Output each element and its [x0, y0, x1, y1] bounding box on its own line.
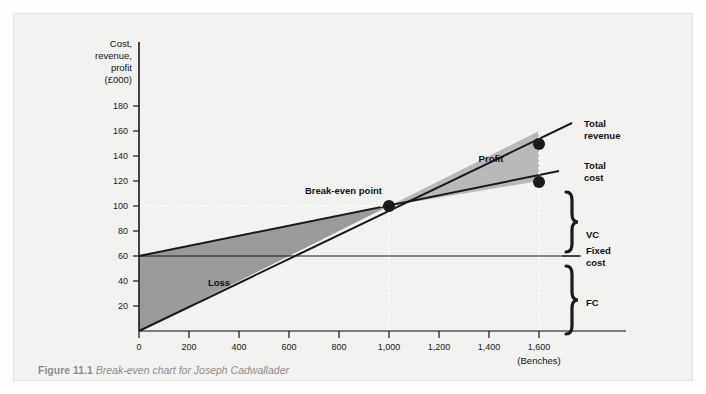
total-cost-label-line-1: Total	[584, 160, 606, 171]
y-axis-title-line-1: Cost,	[110, 38, 132, 49]
total-revenue-label-line-1: Total	[584, 118, 606, 129]
y-axis-title-line-2: revenue,	[95, 50, 132, 61]
figure-caption: Figure 11.1 Break-even chart for Joseph …	[38, 364, 289, 376]
y-axis-title: Cost, revenue, profit (£000)	[95, 38, 132, 85]
right-label-fixed-cost: Fixed cost	[586, 245, 611, 268]
x-tick-label-800: 800	[331, 342, 346, 352]
x-tick-label-200: 200	[181, 342, 196, 352]
figure-caption-text: Break-even chart for Joseph Cadwallader	[96, 364, 289, 376]
x-tick-label-0: 0	[136, 342, 141, 352]
x-tick-label-1600: 1,600	[528, 342, 551, 352]
right-label-total-revenue: Total revenue	[584, 118, 620, 141]
x-axis-title: (Benches)	[517, 355, 560, 366]
fixed-cost-label-line-1: Fixed	[586, 245, 611, 256]
y-tick-label-40: 40	[118, 276, 128, 286]
fixed-cost-label-line-2: cost	[586, 257, 606, 268]
total-revenue-marker	[533, 138, 545, 150]
total-cost-label-line-2: cost	[584, 172, 604, 183]
figure-caption-label: Figure 11.1	[38, 364, 93, 376]
y-tick-label-140: 140	[113, 151, 128, 161]
x-tick-label-1400: 1,400	[478, 342, 501, 352]
break-even-chart: 20 40 60 80 100 120 140 160 180 Cost, re…	[14, 14, 694, 382]
fixed-cost-abbrev-label: FC	[586, 297, 599, 308]
y-tick-label-100: 100	[113, 201, 128, 211]
series-total-cost	[139, 171, 559, 256]
x-tick-label-600: 600	[281, 342, 296, 352]
chart-svg: 20 40 60 80 100 120 140 160 180 Cost, re…	[14, 14, 694, 382]
break-even-marker	[383, 200, 395, 212]
x-axis-ticks	[139, 331, 539, 338]
x-tick-label-1000: 1,000	[378, 342, 401, 352]
series-total-revenue	[139, 123, 572, 331]
x-tick-label-1200: 1,200	[428, 342, 451, 352]
y-tick-label-80: 80	[118, 226, 128, 236]
fixed-cost-brace	[566, 266, 578, 334]
total-revenue-label-line-2: revenue	[584, 130, 620, 141]
profit-region-label: Profit	[479, 153, 505, 164]
variable-cost-brace	[566, 192, 578, 252]
y-axis-ticks	[133, 106, 139, 306]
y-tick-label-20: 20	[118, 301, 128, 311]
y-axis-title-line-4: (£000)	[105, 74, 132, 85]
figure-panel: 20 40 60 80 100 120 140 160 180 Cost, re…	[13, 13, 693, 381]
loss-region-label: Loss	[208, 277, 230, 288]
y-tick-label-180: 180	[113, 101, 128, 111]
right-label-total-cost: Total cost	[584, 160, 606, 183]
y-tick-label-120: 120	[113, 176, 128, 186]
break-even-point-label: Break-even point	[305, 185, 383, 196]
y-tick-label-60: 60	[118, 251, 128, 261]
y-axis-title-line-3: profit	[111, 62, 132, 73]
y-tick-label-160: 160	[113, 126, 128, 136]
profit-region	[389, 131, 539, 206]
total-cost-marker	[533, 176, 545, 188]
variable-cost-label: VC	[586, 229, 599, 240]
x-tick-label-400: 400	[231, 342, 246, 352]
